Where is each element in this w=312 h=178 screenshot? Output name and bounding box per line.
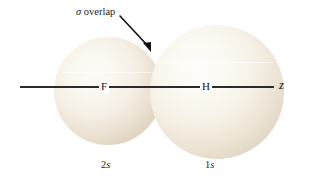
orbital-overlap-figure: F H z σ overlap 2s 1s	[0, 0, 312, 178]
atom-label-fluorine: F	[99, 80, 109, 93]
z-axis-label: z	[279, 78, 284, 91]
caption-1s-letter: s	[210, 159, 214, 170]
caption-2s-letter: s	[106, 159, 110, 170]
orbital-caption-1s: 1s	[205, 159, 214, 170]
z-axis-line	[20, 86, 274, 88]
sigma-overlap-annotation: σ overlap	[76, 6, 115, 18]
orbital-caption-2s: 2s	[101, 159, 110, 170]
orbital-sphere-1s	[150, 25, 284, 159]
overlap-text: overlap	[81, 6, 115, 17]
atom-label-hydrogen: H	[200, 80, 212, 93]
